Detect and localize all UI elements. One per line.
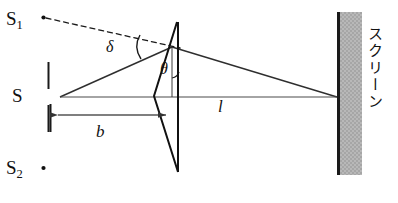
- label-distance-l: l: [218, 98, 223, 115]
- angle-markers: [137, 35, 179, 78]
- label-virtual-source-2: S2: [6, 158, 23, 180]
- label-screen: スクリーン: [366, 26, 382, 111]
- label-prism-angle: θ: [160, 61, 168, 77]
- virtual-source-1-dot: [41, 15, 45, 19]
- label-virtual-source-1: S1: [6, 9, 23, 31]
- virtual-source-2-dot: [41, 166, 45, 170]
- label-s1-letter: S: [6, 8, 17, 29]
- label-source: S: [12, 86, 23, 105]
- label-s2-subscript: 2: [17, 167, 23, 181]
- ray-bundle: [60, 47, 337, 97]
- optics-biprism-diagram: S1 S2 S δ θ b l スクリーン: [0, 0, 398, 203]
- label-s1-subscript: 1: [17, 18, 23, 32]
- screen-group: [339, 12, 363, 175]
- ray-upper-refracted: [172, 47, 337, 97]
- dimension-b-group: [51, 104, 167, 132]
- label-s2-letter: S: [6, 157, 17, 178]
- screen-hatch-band: [340, 12, 362, 175]
- label-deviation-angle: δ: [106, 39, 113, 55]
- diagram-canvas: [0, 0, 398, 203]
- label-distance-b: b: [96, 123, 105, 140]
